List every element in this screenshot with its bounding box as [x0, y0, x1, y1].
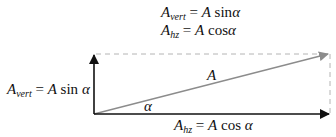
eq-angle: α	[228, 22, 236, 38]
eq-base: A	[161, 4, 170, 20]
eq-equals: =	[32, 81, 48, 97]
eq-angle: α	[245, 117, 253, 133]
vector-decomposition-diagram: Avert = A sinα Ahz = A cosα Avert = A si…	[0, 0, 336, 137]
eq-fn: sin	[211, 4, 232, 20]
eq-var: A	[195, 22, 204, 38]
eq-base: A	[174, 117, 183, 133]
horizontal-component-label: Ahz = A cos α	[174, 118, 253, 135]
eq-equals: =	[186, 4, 202, 20]
eq-equals: =	[192, 117, 208, 133]
eq-base: A	[161, 22, 170, 38]
eq-angle: α	[82, 81, 90, 97]
eq-subscript: hz	[183, 124, 192, 135]
header-equation-hz: Ahz = A cosα	[161, 23, 236, 40]
angle-label: α	[144, 99, 152, 114]
eq-subscript: hz	[170, 29, 179, 40]
eq-base: A	[7, 81, 16, 97]
eq-equals: =	[179, 22, 195, 38]
eq-subscript: vert	[16, 88, 32, 99]
resultant-vector-arrow	[94, 54, 328, 114]
eq-fn: cos	[217, 117, 245, 133]
eq-angle: α	[232, 4, 240, 20]
eq-fn: cos	[204, 22, 228, 38]
eq-fn: sin	[57, 81, 82, 97]
header-equation-vert: Avert = A sinα	[161, 5, 240, 22]
eq-var: A	[48, 81, 57, 97]
resultant-vector-label: A	[207, 68, 216, 83]
vertical-component-label: Avert = A sin α	[7, 82, 90, 99]
eq-var: A	[202, 4, 211, 20]
eq-subscript: vert	[170, 11, 186, 22]
eq-var: A	[208, 117, 217, 133]
